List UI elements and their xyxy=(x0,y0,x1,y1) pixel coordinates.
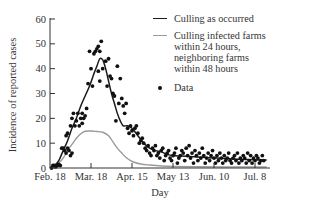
data-point xyxy=(199,156,203,160)
data-point xyxy=(203,161,207,165)
y-tick-label: 60 xyxy=(36,14,47,25)
data-point xyxy=(218,151,222,155)
data-point xyxy=(233,154,237,158)
data-point xyxy=(246,151,250,155)
gray-line-swatch-icon xyxy=(153,35,167,36)
data-point xyxy=(101,67,105,71)
data-point xyxy=(70,116,74,120)
data-point xyxy=(74,119,78,123)
x-axis-title: Day xyxy=(151,187,169,198)
gray-series-line xyxy=(50,131,267,168)
data-point xyxy=(186,154,190,158)
data-point xyxy=(208,159,212,163)
data-point xyxy=(195,154,199,158)
data-point xyxy=(174,146,178,150)
legend-label: Culling as occurred xyxy=(174,13,254,24)
data-point xyxy=(132,134,136,138)
data-point xyxy=(73,124,77,128)
data-point xyxy=(189,156,193,160)
y-tick-label: 50 xyxy=(36,38,47,49)
data-point xyxy=(117,102,121,106)
data-point xyxy=(181,151,185,155)
data-point xyxy=(256,156,260,160)
data-point xyxy=(77,124,81,128)
legend-item-culling-as-occurred: Culling as occurred xyxy=(153,13,283,24)
x-tick-label: Mar. 18 xyxy=(75,171,108,182)
data-point xyxy=(98,49,102,53)
data-point xyxy=(89,67,93,71)
data-point xyxy=(130,129,134,133)
data-point xyxy=(127,131,131,135)
data-point xyxy=(202,154,206,158)
data-point xyxy=(123,111,127,115)
data-point xyxy=(262,159,266,163)
data-point xyxy=(184,146,188,150)
data-point xyxy=(67,149,71,153)
data-point xyxy=(149,154,153,158)
data-point xyxy=(243,156,247,160)
data-point xyxy=(98,79,102,83)
data-point xyxy=(230,161,234,165)
data-point xyxy=(145,149,149,153)
data-point xyxy=(173,151,177,155)
data-point xyxy=(96,69,100,73)
data-point xyxy=(200,146,204,150)
data-point xyxy=(167,149,171,153)
data-point xyxy=(66,131,70,135)
data-point xyxy=(197,151,201,155)
data-point xyxy=(140,136,144,140)
data-point xyxy=(170,159,174,163)
data-point xyxy=(83,114,87,118)
data-point xyxy=(64,151,68,155)
data-point xyxy=(110,77,114,81)
data-point xyxy=(247,159,251,163)
data-point xyxy=(237,161,241,165)
y-tick-label: 10 xyxy=(36,138,47,149)
data-point xyxy=(211,149,215,153)
data-point xyxy=(136,131,140,135)
data-point xyxy=(244,161,248,165)
legend-item-fast-culling: Culling infected farms within 24 hours, … xyxy=(153,30,283,74)
data-point xyxy=(85,107,89,111)
data-point xyxy=(88,49,92,53)
legend-label: Data xyxy=(174,82,193,93)
data-point xyxy=(209,154,213,158)
y-tick-label: 40 xyxy=(36,63,47,74)
data-point xyxy=(234,159,238,163)
data-point xyxy=(225,156,229,160)
data-point xyxy=(80,121,84,125)
data-point xyxy=(69,124,73,128)
x-tick-label: Jul. 8 xyxy=(244,171,267,182)
data-point xyxy=(250,161,254,165)
data-point xyxy=(158,156,162,160)
data-point xyxy=(222,154,226,158)
data-point xyxy=(192,161,196,165)
data-point xyxy=(221,161,225,165)
data-point xyxy=(96,44,100,48)
data-point xyxy=(227,151,231,155)
data-point xyxy=(124,102,128,106)
data-point xyxy=(236,151,240,155)
data-point xyxy=(219,156,223,160)
data-point xyxy=(76,111,80,115)
data-point xyxy=(118,77,122,81)
x-tick-label: May 13 xyxy=(157,171,189,182)
data-point xyxy=(190,151,194,155)
data-point xyxy=(161,146,165,150)
black-line-swatch-icon xyxy=(153,18,167,19)
data-point xyxy=(146,144,150,148)
data-point xyxy=(215,154,219,158)
data-point xyxy=(72,111,76,115)
data-point xyxy=(260,154,264,158)
data-point xyxy=(196,159,200,163)
data-point xyxy=(120,97,124,101)
data-point xyxy=(212,156,216,160)
data-point xyxy=(115,64,119,68)
data-point xyxy=(240,159,244,163)
data-point xyxy=(58,164,62,168)
data-point xyxy=(152,149,156,153)
data-point xyxy=(178,154,182,158)
data-point xyxy=(105,84,109,88)
data-point xyxy=(205,156,209,160)
data-point xyxy=(162,159,166,163)
